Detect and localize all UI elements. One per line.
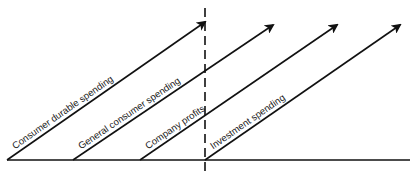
arrow-line — [140, 25, 337, 160]
arrow-label: Investment spending — [208, 92, 287, 151]
arrow-company-profits: Company profits — [140, 25, 337, 160]
leading-indicators-diagram: Consumer durable spending General consum… — [0, 0, 413, 175]
arrow-line — [205, 25, 400, 160]
arrow-label: Company profits — [143, 102, 207, 151]
arrow-investment-spending: Investment spending — [205, 25, 400, 160]
